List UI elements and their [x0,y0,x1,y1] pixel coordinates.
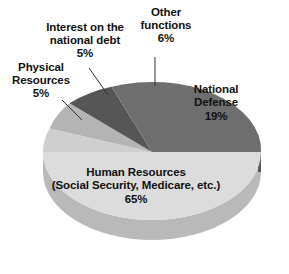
slice-label-human-resources: Human Resources (Social Security, Medica… [38,166,234,206]
slice-label-physical-resources: Physical Resources 5% [4,61,78,101]
slice-label-interest-national-debt: Interest on the national debt 5% [33,21,137,61]
pie-chart: Other functions 6% Interest on the natio… [0,0,289,274]
slice-label-national-defense: National Defense 19% [175,83,257,123]
slice-label-other-functions: Other functions 6% [130,6,202,46]
